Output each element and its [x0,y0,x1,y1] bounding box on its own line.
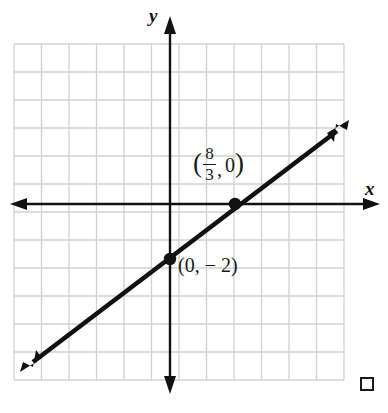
y-axis-bottom-arrow-icon [164,376,176,394]
x-axis [10,198,380,210]
y-axis-label: y [149,5,157,27]
x-intercept-close-paren: ) [235,150,244,177]
x-axis-left-arrow-icon [10,198,27,210]
graph-svg [0,0,388,413]
point-x-intercept [229,198,241,210]
y-axis-top-arrow-icon [164,16,176,34]
x-axis-label: x [365,178,375,200]
x-intercept-label: ( 8 3 , 0 ) [193,145,244,184]
fraction-denominator: 3 [203,166,216,184]
line-start-arrow-icon [20,350,42,372]
x-intercept-open-paren: ( [193,150,202,177]
x-intercept-y-value: 0 [225,155,235,175]
answer-checkbox[interactable] [360,377,374,391]
y-intercept-label: (0, − 2) [178,255,238,275]
x-intercept-comma: , [217,159,225,179]
fraction-numerator: 8 [203,145,216,163]
fraction-eight-thirds: 8 3 [203,145,216,184]
coordinate-plane-figure [0,0,388,413]
grid-lines [14,44,344,380]
point-y-intercept [164,253,176,265]
